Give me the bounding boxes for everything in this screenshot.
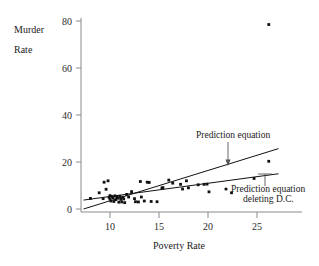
data-points <box>89 23 270 204</box>
y-tick-label-60: 60 <box>62 63 72 74</box>
data-point <box>107 179 110 182</box>
data-point <box>162 186 165 189</box>
data-point <box>134 200 137 203</box>
data-point <box>102 197 105 200</box>
x-axis-ticks <box>110 212 257 218</box>
data-point <box>185 179 188 182</box>
y-axis-tick-labels: 80 60 40 20 0 <box>62 16 72 215</box>
x-tick-label-20: 20 <box>203 221 213 232</box>
data-point <box>156 200 159 203</box>
data-point <box>122 197 125 200</box>
y-tick-label-80: 80 <box>62 16 72 27</box>
data-point <box>143 200 146 203</box>
y-axis-ticks <box>76 21 81 209</box>
data-point <box>197 183 200 186</box>
data-point <box>187 186 190 189</box>
data-point <box>208 190 211 193</box>
chart-canvas: Murder Rate 80 60 40 20 0 10 <box>0 0 319 266</box>
data-point <box>98 191 101 194</box>
y-tick-label-20: 20 <box>62 157 72 168</box>
data-point <box>267 23 270 26</box>
annotation-bullet-icon <box>224 187 227 190</box>
data-point <box>139 180 142 183</box>
annotation-deleting-dc-line1: Prediction equation <box>231 184 305 194</box>
data-point <box>167 179 170 182</box>
y-tick-label-0: 0 <box>67 204 72 215</box>
data-point <box>179 183 182 186</box>
data-point <box>171 182 174 185</box>
data-point <box>110 200 113 203</box>
data-point <box>206 183 209 186</box>
x-tick-label-15: 15 <box>154 221 164 232</box>
data-point <box>89 197 92 200</box>
data-point <box>133 197 136 200</box>
x-axis-tick-labels: 10 15 20 25 <box>105 221 262 232</box>
scatter-plot-figure: Murder Rate 80 60 40 20 0 10 <box>0 0 319 266</box>
y-axis-label-line1: Murder <box>14 24 45 35</box>
data-point <box>267 160 270 163</box>
data-point <box>130 190 133 193</box>
data-point <box>105 188 108 191</box>
data-point <box>125 193 128 196</box>
data-point <box>123 201 126 204</box>
data-point <box>148 181 151 184</box>
data-point <box>150 200 153 203</box>
data-point <box>127 196 130 199</box>
data-point <box>103 181 106 184</box>
data-point <box>137 201 140 204</box>
data-point <box>120 201 123 204</box>
data-point <box>118 195 121 198</box>
annotation-deleting-dc-line2: deleting D.C. <box>243 194 294 204</box>
data-point <box>253 177 256 180</box>
y-axis-label-line2: Rate <box>14 44 33 55</box>
data-point <box>117 201 120 204</box>
x-axis-label: Poverty Rate <box>153 240 205 251</box>
data-point <box>140 196 143 199</box>
data-point <box>203 183 206 186</box>
data-point <box>181 188 184 191</box>
y-tick-label-40: 40 <box>62 110 72 121</box>
annotation-prediction-equation: Prediction equation <box>196 130 270 140</box>
x-tick-label-25: 25 <box>252 221 262 232</box>
x-tick-label-10: 10 <box>105 221 115 232</box>
